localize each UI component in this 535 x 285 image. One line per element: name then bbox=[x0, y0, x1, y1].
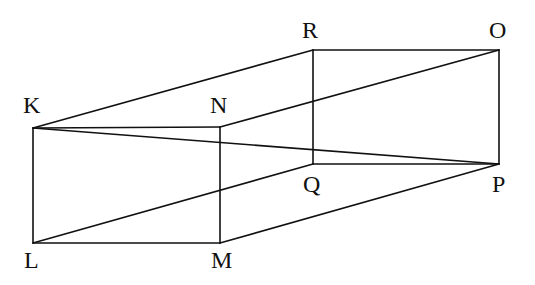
vertex-label-n: N bbox=[210, 92, 227, 118]
edge-kn bbox=[33, 127, 220, 128]
cuboid-diagram: K N M L R O P Q bbox=[0, 0, 535, 285]
edge-lq bbox=[33, 164, 313, 243]
vertex-label-k: K bbox=[23, 92, 41, 118]
vertex-label-r: R bbox=[302, 17, 318, 43]
diagonals-group bbox=[33, 128, 499, 164]
vertex-label-p: P bbox=[492, 171, 505, 197]
vertex-label-q: Q bbox=[303, 171, 320, 197]
vertex-label-l: L bbox=[24, 247, 39, 273]
vertex-label-m: M bbox=[211, 247, 232, 273]
edge-kr bbox=[33, 50, 313, 128]
diagonal-kp bbox=[33, 128, 499, 164]
vertex-labels-group: K N M L R O P Q bbox=[23, 17, 506, 273]
edge-mp bbox=[220, 164, 499, 243]
vertex-label-o: O bbox=[489, 17, 506, 43]
edge-no bbox=[220, 50, 499, 127]
